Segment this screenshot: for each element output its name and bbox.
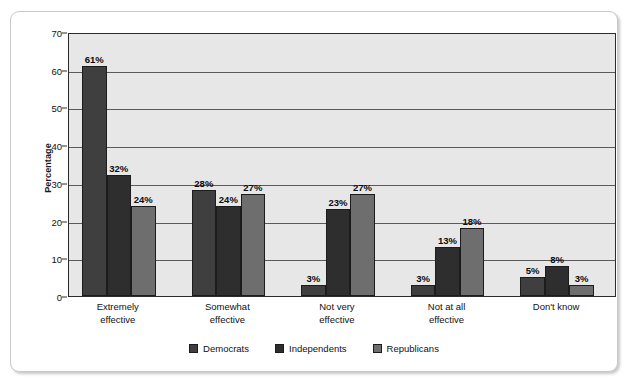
plot-area: 61%32%24%28%24%27%3%23%27%3%13%18%5%8%3% xyxy=(68,33,616,297)
x-axis-category-label-line: effective xyxy=(63,314,173,327)
bar-value-label: 27% xyxy=(353,182,372,193)
x-axis-category-label-line: Extremely xyxy=(63,301,173,314)
legend-swatch-icon xyxy=(275,344,284,353)
y-tick-mark xyxy=(62,33,67,34)
x-axis-category-label: Somewhateffective xyxy=(172,301,282,326)
bar-value-label: 27% xyxy=(243,182,262,193)
bar-value-label: 24% xyxy=(219,194,238,205)
bar: 8% xyxy=(545,266,570,296)
bar-group: 5%8%3% xyxy=(520,34,594,296)
bar-group: 3%23%27% xyxy=(301,34,375,296)
bar: 24% xyxy=(216,206,241,297)
bar-value-label: 24% xyxy=(134,194,153,205)
x-axis-category-label: Not veryeffective xyxy=(282,301,392,326)
y-tick-mark xyxy=(62,297,67,298)
legend-label: Independents xyxy=(289,343,347,354)
bar-value-label: 18% xyxy=(463,216,482,227)
bar: 24% xyxy=(131,206,156,297)
bar: 23% xyxy=(326,209,351,296)
x-axis-labels: ExtremelyeffectiveSomewhateffectiveNot v… xyxy=(68,301,616,335)
bar-value-label: 61% xyxy=(85,54,104,65)
x-axis-category-label-line: Somewhat xyxy=(172,301,282,314)
y-tick-label: 10 xyxy=(18,254,62,265)
x-axis-category-label-line: effective xyxy=(392,314,502,327)
x-axis-category-label: Don't know xyxy=(501,301,611,314)
bars-layer: 61%32%24%28%24%27%3%23%27%3%13%18%5%8%3% xyxy=(69,34,615,296)
x-axis-category-label-line: Not very xyxy=(282,301,392,314)
x-axis-category-label-line: effective xyxy=(172,314,282,327)
bar: 27% xyxy=(350,194,375,296)
legend-item-independents: Independents xyxy=(275,343,347,354)
bar: 3% xyxy=(569,285,594,296)
y-tick-label: 60 xyxy=(18,65,62,76)
x-axis-category-label-line: effective xyxy=(282,314,392,327)
y-tick-label: 30 xyxy=(18,178,62,189)
bar-value-label: 32% xyxy=(109,163,128,174)
bar: 61% xyxy=(82,66,107,296)
x-axis-category-label: Not at alleffective xyxy=(392,301,502,326)
x-axis-category-label: Extremelyeffective xyxy=(63,301,173,326)
legend-item-democrats: Democrats xyxy=(189,343,249,354)
bar-group: 3%13%18% xyxy=(411,34,485,296)
y-tick-label: 70 xyxy=(18,28,62,39)
y-axis-ticks: 010203040506070 xyxy=(10,33,62,297)
x-axis-category-label-line: Don't know xyxy=(501,301,611,314)
y-tick-label: 20 xyxy=(18,216,62,227)
x-axis-category-label-line: Not at all xyxy=(392,301,502,314)
bar: 18% xyxy=(460,228,485,296)
bar-value-label: 3% xyxy=(416,273,430,284)
y-tick-label: 50 xyxy=(18,103,62,114)
bar: 3% xyxy=(301,285,326,296)
y-tick-mark xyxy=(62,259,67,260)
bar: 5% xyxy=(520,277,545,296)
y-tick-label: 40 xyxy=(18,141,62,152)
y-tick-label: 0 xyxy=(18,292,62,303)
bar-value-label: 8% xyxy=(550,254,564,265)
legend-item-republicans: Republicans xyxy=(373,343,439,354)
bar-value-label: 28% xyxy=(194,178,213,189)
bar-group: 28%24%27% xyxy=(192,34,266,296)
bar: 32% xyxy=(107,175,132,296)
legend-swatch-icon xyxy=(189,344,198,353)
bar: 13% xyxy=(435,247,460,296)
bar: 27% xyxy=(241,194,266,296)
bar-value-label: 23% xyxy=(328,197,347,208)
bar-group: 61%32%24% xyxy=(82,34,156,296)
y-tick-mark xyxy=(62,183,67,184)
y-tick-mark xyxy=(62,146,67,147)
chart-legend: DemocratsIndependentsRepublicans xyxy=(10,343,618,354)
bar-value-label: 3% xyxy=(307,273,321,284)
bar-value-label: 13% xyxy=(438,235,457,246)
bar: 3% xyxy=(411,285,436,296)
bar-value-label: 5% xyxy=(526,265,540,276)
legend-label: Republicans xyxy=(387,343,439,354)
y-tick-mark xyxy=(62,221,67,222)
y-tick-mark xyxy=(62,108,67,109)
bar-value-label: 3% xyxy=(575,273,589,284)
legend-label: Democrats xyxy=(203,343,249,354)
y-tick-mark xyxy=(62,70,67,71)
legend-swatch-icon xyxy=(373,344,382,353)
grouped-bar-chart: Percentage 010203040506070 61%32%24%28%2… xyxy=(10,11,618,372)
bar: 28% xyxy=(192,190,217,296)
